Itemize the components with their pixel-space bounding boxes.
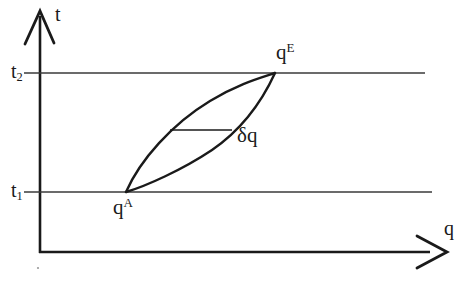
endpoint-label-qE: qE [276,42,294,63]
endpoint-label-qA-base: q [113,195,124,219]
tick-label-t2: t2 [11,61,23,81]
endpoint-label-qE-base: q [276,40,287,64]
endpoint-label-qE-superscript: E [287,40,295,55]
tick-label-t1-subscript: 1 [17,189,23,203]
axes-group [25,11,447,268]
endpoint-label-qA: qA [113,197,133,218]
q-axis-label: q [444,218,454,238]
endpoint-label-qA-superscript: A [124,195,133,210]
variation-label-delta-q: δq [237,125,257,146]
tick-label-t1: t1 [11,180,23,200]
tick-label-t2-subscript: 2 [17,70,23,84]
t-axis-label: t [55,4,61,24]
figure-canvas: t q t2 t1 qE qA δq [0,0,475,284]
scan-speck [37,267,39,269]
